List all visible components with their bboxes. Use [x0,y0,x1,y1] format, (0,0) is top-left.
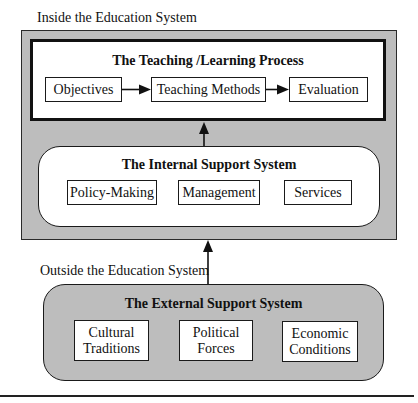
arrowhead-icon [203,240,213,252]
bottom-divider [0,395,414,397]
arrowhead-icon [139,85,151,95]
diagram-arrows [0,0,418,403]
arrowhead-icon [199,122,209,134]
arrowhead-icon [277,85,289,95]
